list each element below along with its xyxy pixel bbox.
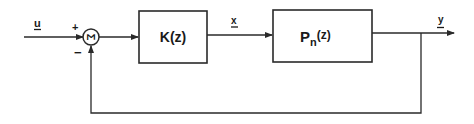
plus-sign: +: [72, 21, 78, 33]
sigma-icon: Σ: [85, 34, 97, 41]
input-label-u: u: [34, 17, 41, 29]
block-diagram: u Σ + − K(z) x Pn(z) y: [0, 0, 474, 124]
controller-label: K(z): [160, 29, 186, 45]
summing-junction: Σ: [83, 29, 99, 45]
output-label-y: y: [438, 14, 444, 25]
controller-block: K(z): [139, 11, 207, 63]
intermediate-label-x: x: [231, 15, 237, 26]
plant-label-arg: (z): [317, 28, 331, 42]
plant-block: Pn(z): [273, 10, 372, 62]
minus-sign: −: [74, 45, 82, 60]
plant-label-main: P: [300, 28, 310, 45]
